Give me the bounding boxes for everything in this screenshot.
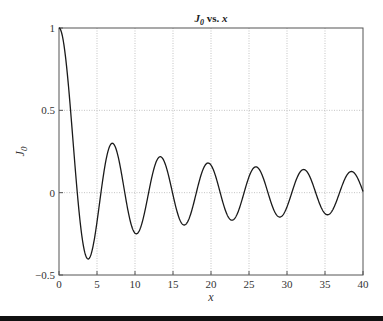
bottom-divider	[0, 316, 383, 321]
x-tick-label: 25	[244, 278, 256, 290]
y-tick-label: 0.5	[41, 104, 55, 116]
x-tick-label: 35	[320, 278, 332, 290]
chart-title: J0 vs. x	[193, 12, 228, 27]
y-tick-label: 0	[50, 187, 56, 199]
chart-container: 0510152025303540−0.500.51J0 vs. xxJ0	[0, 0, 383, 321]
y-tick-label: 1	[50, 22, 56, 34]
x-tick-label: 40	[358, 278, 370, 290]
y-axis-label: J0	[13, 146, 29, 156]
x-tick-label: 10	[130, 278, 142, 290]
x-tick-label: 0	[56, 278, 62, 290]
y-tick-label: −0.5	[35, 269, 55, 281]
x-tick-label: 30	[282, 278, 294, 290]
bessel-chart: 0510152025303540−0.500.51J0 vs. xxJ0	[0, 0, 383, 321]
x-tick-label: 20	[206, 278, 218, 290]
x-tick-label: 15	[168, 278, 180, 290]
x-tick-label: 5	[94, 278, 100, 290]
x-axis-label: x	[207, 290, 214, 304]
